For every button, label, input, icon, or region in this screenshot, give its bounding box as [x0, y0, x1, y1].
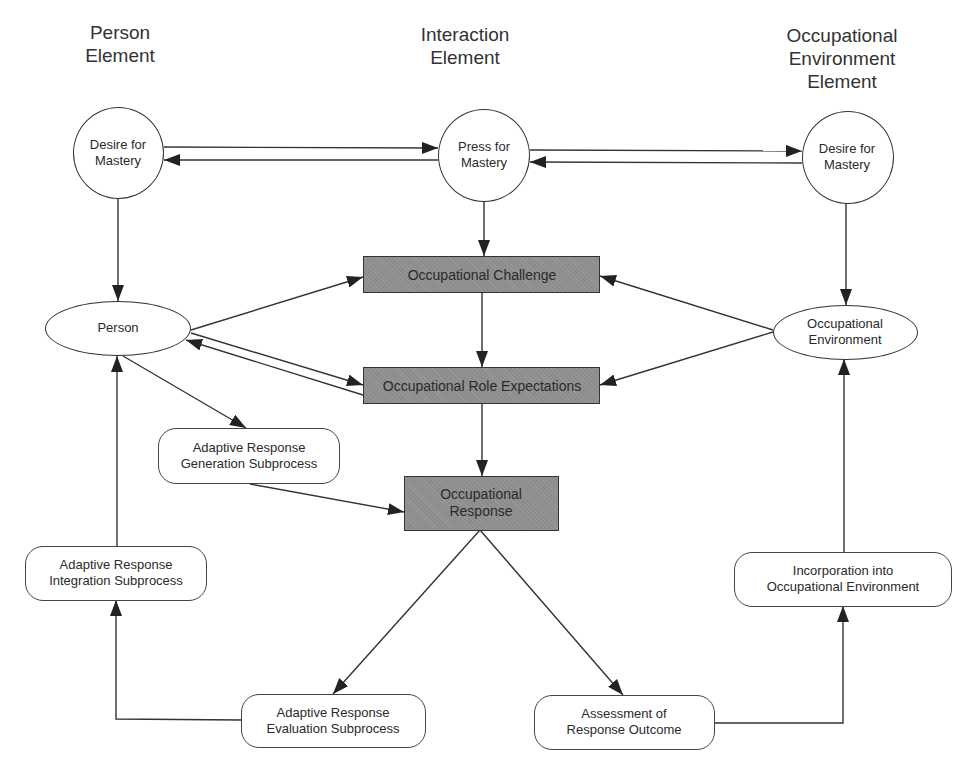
column-header-environment-text: Occupational Environment Element [787, 25, 898, 93]
edge-environment-to-role [600, 332, 773, 385]
node-press-for-mastery-label: Press for Mastery [458, 139, 510, 170]
label-line: Response [440, 503, 522, 520]
node-occupational-response-label: Occupational Response [440, 486, 522, 520]
edge-environment-to-challenge [600, 276, 773, 330]
label-line: Press for [458, 139, 510, 155]
node-incorporation-into-environment-label: Incorporation into Occupational Environm… [767, 563, 919, 594]
label-line: Mastery [90, 153, 146, 169]
label-line: Generation Subprocess [181, 456, 318, 472]
column-header-interaction: Interaction Element [421, 24, 510, 70]
label-line: Environment [807, 332, 883, 348]
edge-press-to-env-desire [530, 150, 802, 151]
node-adaptive-response-evaluation-label: Adaptive Response Evaluation Subprocess [267, 705, 400, 736]
label-line: Occupational Environment [767, 579, 919, 595]
label-line: Occupational [440, 486, 522, 503]
column-header-person: Person Element [85, 22, 155, 68]
label-line: Adaptive Response [181, 440, 318, 456]
label-line: Desire for [90, 137, 146, 153]
edge-response-to-assessment [480, 530, 623, 695]
node-occupational-environment-label: Occupational Environment [807, 316, 883, 347]
node-occupational-role-expectations-label: Occupational Role Expectations [383, 378, 581, 395]
node-person-desire-for-mastery-label: Desire for Mastery [90, 137, 146, 168]
label-line: Integration Subprocess [49, 573, 183, 589]
label-line: Occupational [807, 316, 883, 332]
column-header-person-text: Person Element [85, 22, 155, 68]
edge-person-to-generation [123, 356, 246, 428]
occupational-adaptation-diagram: Person Element Interaction Element Occup… [0, 0, 976, 772]
node-assessment-of-response-outcome-label: Assessment of Response Outcome [567, 706, 682, 737]
node-adaptive-response-integration-label: Adaptive Response Integration Subprocess [49, 557, 183, 588]
label-line: Response Outcome [567, 722, 682, 738]
edge-env-desire-to-press [530, 162, 802, 163]
node-adaptive-response-generation-label: Adaptive Response Generation Subprocess [181, 440, 318, 471]
label-line: Person [97, 320, 138, 336]
node-environment-desire-for-mastery-label: Desire for Mastery [819, 141, 875, 172]
column-header-environment: Occupational Environment Element [787, 25, 898, 93]
label-line: Incorporation into [767, 563, 919, 579]
node-occupational-challenge-label: Occupational Challenge [408, 267, 557, 284]
edge-person-to-role [191, 333, 363, 385]
label-line: Assessment of [567, 706, 682, 722]
label-line: Mastery [458, 155, 510, 171]
label-line: Adaptive Response [267, 705, 400, 721]
edge-role-to-person [186, 340, 363, 395]
label-line: Adaptive Response [49, 557, 183, 573]
edge-person-desire-to-press [164, 147, 438, 148]
node-person-label: Person [97, 320, 138, 336]
edge-person-to-challenge [191, 277, 363, 330]
edge-evaluation-to-integration [116, 600, 241, 720]
label-line: Evaluation Subprocess [267, 721, 400, 737]
label-line: Desire for [819, 141, 875, 157]
column-header-interaction-text: Interaction Element [421, 24, 510, 70]
label-line: Occupational Challenge [408, 267, 557, 284]
edge-response-to-evaluation [333, 530, 480, 694]
edge-generation-to-response [250, 484, 404, 512]
label-line: Mastery [819, 157, 875, 173]
label-line: Occupational Role Expectations [383, 378, 581, 395]
edge-assessment-to-incorporation [715, 606, 843, 723]
